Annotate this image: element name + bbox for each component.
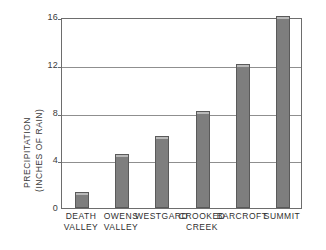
bar-top-highlight xyxy=(237,65,249,67)
bar-owens-valley xyxy=(115,154,129,208)
bar-crooked-creek xyxy=(196,111,210,208)
y-tick-label-8: 8 xyxy=(2,108,58,118)
y-tick-label-0: 0 xyxy=(2,203,58,213)
plot-area xyxy=(61,18,302,209)
x-label-summit: SUMMIT xyxy=(256,211,308,222)
bar-top-highlight xyxy=(116,155,128,157)
bar-top-highlight xyxy=(277,17,289,19)
bar-chart: PRECIPITATION (INCHES OF RAIN) 1612840 D… xyxy=(0,0,326,250)
y-axis-tick-labels: 1612840 xyxy=(0,0,58,250)
y-tick-label-4: 4 xyxy=(2,155,58,165)
bar-top-highlight xyxy=(197,112,209,114)
y-tick-label-12: 12 xyxy=(2,60,58,70)
bar-top-highlight xyxy=(156,137,168,139)
y-tick-label-16: 16 xyxy=(2,12,58,22)
x-axis-category-labels: DEATHVALLEYOWENSVALLEYWESTGARDCROOKEDCRE… xyxy=(61,211,302,247)
bar-death-valley xyxy=(75,192,89,208)
bar-barcroft xyxy=(236,64,250,208)
bar-summit xyxy=(276,16,290,208)
bar-top-highlight xyxy=(76,193,88,195)
bar-series xyxy=(62,19,301,208)
bar-westgard xyxy=(155,136,169,208)
